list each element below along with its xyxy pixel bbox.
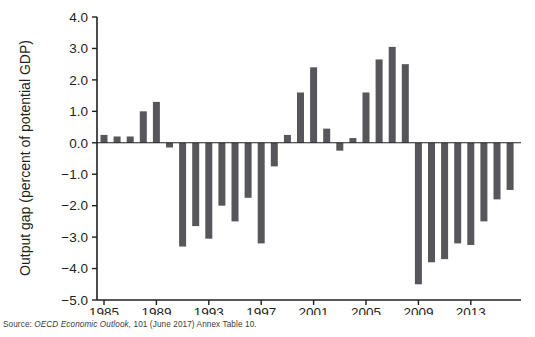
bar <box>349 138 356 143</box>
bar <box>218 143 225 206</box>
source-detail: 101 (June 2017) Annex Table 10. <box>134 320 257 329</box>
bar <box>389 47 396 143</box>
x-tick-label: 1985 <box>89 305 119 315</box>
bar <box>101 135 108 143</box>
bar <box>336 143 343 151</box>
bar <box>310 67 317 142</box>
bar <box>153 102 160 143</box>
bar <box>363 92 370 142</box>
bar <box>480 143 487 222</box>
y-tick-label: −4.0 <box>61 261 88 276</box>
bar <box>127 136 134 142</box>
x-tick-label: 1997 <box>246 305 276 315</box>
bar <box>271 143 278 167</box>
bar <box>402 64 409 143</box>
bar <box>376 59 383 142</box>
x-tick-label: 2009 <box>403 305 433 315</box>
x-tick-label: 2005 <box>351 305 381 315</box>
x-tick-label: 1993 <box>194 305 224 315</box>
bar <box>454 143 461 244</box>
y-tick-label: 3.0 <box>69 41 88 56</box>
figure-container: 4.03.02.01.00.0−1.0−2.0−3.0−4.0−5.0 1985… <box>0 0 535 337</box>
source-prefix: Source: <box>3 320 32 329</box>
x-tick-label: 2001 <box>299 305 329 315</box>
x-tick-label: 2013 <box>456 305 486 315</box>
y-tick-label: 1.0 <box>69 104 88 119</box>
y-axis-ticks: 4.03.02.01.00.0−1.0−2.0−3.0−4.0−5.0 <box>61 10 97 308</box>
y-tick-label: −5.0 <box>61 293 88 308</box>
bar <box>166 143 173 148</box>
bar <box>428 143 435 262</box>
plot-area: 4.03.02.01.00.0−1.0−2.0−3.0−4.0−5.0 1985… <box>61 10 521 315</box>
bar <box>140 111 147 142</box>
bar <box>192 143 199 226</box>
bar <box>415 143 422 285</box>
source-note: Source: OECD Economic Outlook, 101 (June… <box>3 320 257 329</box>
bar <box>507 143 514 190</box>
y-tick-label: 2.0 <box>69 73 88 88</box>
bar <box>494 143 501 200</box>
source-publication: OECD Economic Outlook, <box>34 320 131 329</box>
bar <box>245 143 252 198</box>
y-tick-label: −3.0 <box>61 230 88 245</box>
x-tick-label: 1989 <box>141 305 171 315</box>
bar <box>258 143 265 244</box>
bar <box>205 143 212 239</box>
y-tick-label: 0.0 <box>69 136 88 151</box>
y-axis-title: Output gap (percent of potential GDP) <box>17 40 33 276</box>
bar <box>297 92 304 142</box>
bar <box>114 136 121 142</box>
x-axis-ticks: 19851989199319972001200520092013 <box>89 300 486 315</box>
y-tick-label: −2.0 <box>61 198 88 213</box>
bar <box>441 143 448 259</box>
bar <box>232 143 239 222</box>
bar <box>467 143 474 245</box>
y-tick-label: −1.0 <box>61 167 88 182</box>
output-gap-bar-chart: 4.03.02.01.00.0−1.0−2.0−3.0−4.0−5.0 1985… <box>0 0 535 315</box>
bar <box>179 143 186 247</box>
bar <box>284 135 291 143</box>
y-tick-label: 4.0 <box>69 10 88 25</box>
bar <box>323 129 330 143</box>
bars-group <box>101 47 514 284</box>
